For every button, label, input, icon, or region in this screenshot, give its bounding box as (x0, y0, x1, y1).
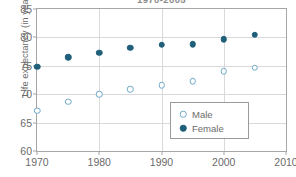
y-tick-mark (33, 37, 37, 38)
legend-item-female[interactable]: Female (176, 121, 243, 135)
x-tick-label: 2010 (274, 156, 296, 168)
data-point-male-2000 (221, 68, 228, 75)
data-point-female-1975 (65, 54, 72, 61)
x-tick-label: 1970 (25, 156, 48, 168)
x-tick-mark (286, 151, 287, 155)
x-tick-mark (223, 151, 224, 155)
data-point-male-1985 (127, 86, 134, 93)
y-tick-label: 85 (20, 3, 32, 15)
y-tick-label: 80 (20, 31, 32, 43)
x-tick-mark (161, 151, 162, 155)
data-point-female-1990 (158, 42, 165, 49)
data-point-male-1990 (158, 82, 165, 89)
data-point-male-1980 (96, 91, 103, 98)
data-point-female-2005 (252, 31, 259, 38)
life-expectancy-scatter-chart: 1970-2005 Life expectancy (in years) 606… (0, 0, 296, 177)
y-tick-mark (33, 9, 37, 10)
y-tick-label: 75 (20, 60, 32, 72)
data-point-female-1995 (189, 41, 196, 48)
gridline-vertical (162, 9, 163, 151)
x-tick-mark (37, 151, 38, 155)
chart-legend: Male Female (170, 102, 249, 139)
x-tick-label: 1980 (88, 156, 111, 168)
legend-item-male[interactable]: Male (176, 107, 243, 121)
data-point-female-1985 (127, 44, 134, 51)
data-point-female-2000 (221, 36, 228, 43)
y-tick-label: 70 (20, 88, 32, 100)
legend-label-male: Male (192, 109, 213, 120)
y-tick-mark (33, 94, 37, 95)
x-tick-mark (99, 151, 100, 155)
plot-area: 60657075808519701980199020002010 (36, 8, 287, 152)
gridline-vertical (99, 9, 100, 151)
female-marker-icon (176, 121, 190, 135)
data-point-male-2005 (252, 64, 259, 71)
data-point-female-1980 (96, 49, 103, 56)
data-point-male-1975 (65, 98, 72, 105)
male-marker-icon (176, 107, 190, 121)
x-tick-label: 2000 (212, 156, 235, 168)
y-tick-label: 65 (20, 117, 32, 129)
data-point-female-1970 (34, 64, 41, 71)
data-point-male-1995 (189, 78, 196, 85)
y-tick-mark (33, 122, 37, 123)
chart-title: 1970-2005 (36, 0, 287, 3)
x-tick-label: 1990 (150, 156, 173, 168)
legend-label-female: Female (192, 123, 224, 134)
data-point-male-1970 (34, 107, 41, 114)
